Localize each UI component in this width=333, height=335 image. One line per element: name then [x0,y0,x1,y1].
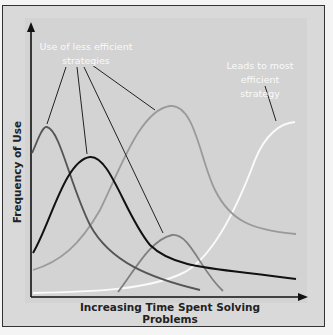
annotation-text: strategies [36,54,136,68]
annotation-text: efficient strategy [220,73,300,101]
annotation-less-efficient: Use of less efficient strategies [36,40,136,68]
y-axis-label: Frequency of Use [11,117,23,227]
x-axis-label: Increasing Time Spent Solving Problems [60,301,280,325]
annotation-text: Use of less efficient [36,40,136,54]
annotation-text: Leads to most [220,59,300,73]
annotation-most-efficient: Leads to most efficient strategy [220,59,300,101]
